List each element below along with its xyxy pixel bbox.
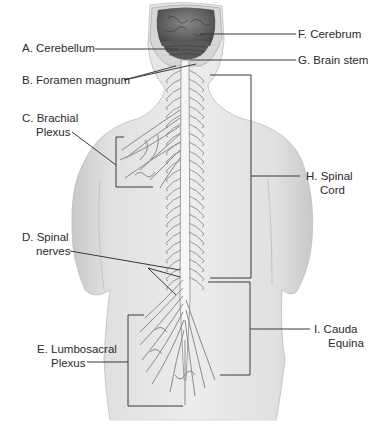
label-brachial-plexus: C. Brachial Plexus [22,111,78,139]
label-lumbosacral-plexus: E. Lumbosacral Plexus [37,342,117,370]
spinal-cord [180,60,190,380]
label-cauda-equina: I. Cauda Equina [314,322,364,350]
label-spinal-nerves: D. Spinal nerves [22,230,71,258]
head [150,5,222,66]
label-spinal-cord: H. Spinal Cord [306,169,353,197]
label-brain-stem: G. Brain stem [298,53,368,67]
label-cerebellum: A. Cerebellum [22,41,95,55]
label-foramen-magnum: B. Foramen magnum [22,73,130,87]
label-cerebrum: F. Cerebrum [298,27,361,41]
